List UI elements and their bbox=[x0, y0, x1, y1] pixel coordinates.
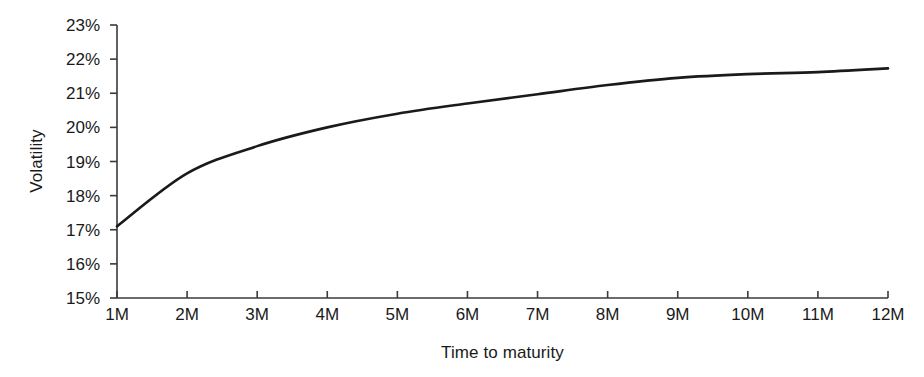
x-axis-tick-label: 12M bbox=[871, 306, 904, 323]
x-axis-tick-label: 5M bbox=[386, 306, 410, 323]
x-axis-tick-label: 6M bbox=[456, 306, 480, 323]
x-axis-tick-label: 11M bbox=[802, 306, 834, 323]
x-axis-tick-label: 10M bbox=[731, 306, 764, 323]
x-axis-ticks bbox=[117, 291, 888, 298]
x-axis-tick-label: 7M bbox=[526, 306, 550, 323]
x-axis-tick-label: 8M bbox=[596, 306, 620, 323]
volatility-term-structure-chart: Volatility 15%16%17%18%19%20%21%22%23% 1… bbox=[0, 0, 924, 377]
x-axis-tick-label: 9M bbox=[666, 306, 690, 323]
volatility-curve bbox=[117, 68, 888, 226]
axis-lines bbox=[117, 25, 888, 298]
x-axis-tick-label: 1M bbox=[105, 306, 129, 323]
x-axis-tick-label: 3M bbox=[245, 306, 269, 323]
x-axis-tick-label: 2M bbox=[175, 306, 199, 323]
x-axis-tick-label: 4M bbox=[315, 306, 339, 323]
y-axis-ticks bbox=[110, 25, 117, 298]
x-axis-title: Time to maturity bbox=[117, 343, 888, 363]
